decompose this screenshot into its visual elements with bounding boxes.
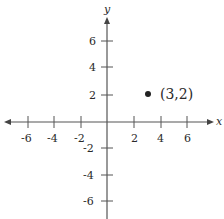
x-tick-label: 6: [184, 132, 191, 145]
x-tick-label: 4: [157, 132, 164, 145]
coordinate-plane: y x -6 -4 -2 2 4 6 6 4 2 -2 -4 -6 (3,2): [0, 0, 224, 219]
y-tick-label: -4: [83, 169, 94, 182]
x-tick-label: -4: [47, 132, 58, 145]
point-marker: [145, 91, 151, 97]
y-axis-label: y: [103, 3, 111, 16]
y-tick-label: -2: [83, 142, 94, 155]
point-label: (3,2): [160, 86, 193, 102]
y-tick-label: -6: [83, 195, 94, 208]
x-axis-label: x: [216, 115, 223, 128]
y-axis-up-arrow-icon: [104, 17, 110, 24]
y-tick-label: 4: [89, 61, 96, 74]
y-tick-label: 6: [89, 35, 96, 48]
x-axis-right-arrow-icon: [207, 119, 214, 125]
x-axis-left-arrow-icon: [4, 119, 11, 125]
x-tick-label: 2: [131, 132, 138, 145]
x-tick-label: -6: [21, 132, 32, 145]
y-tick-label: 2: [89, 89, 96, 102]
x-axis: [4, 119, 214, 125]
y-axis: [104, 17, 110, 219]
